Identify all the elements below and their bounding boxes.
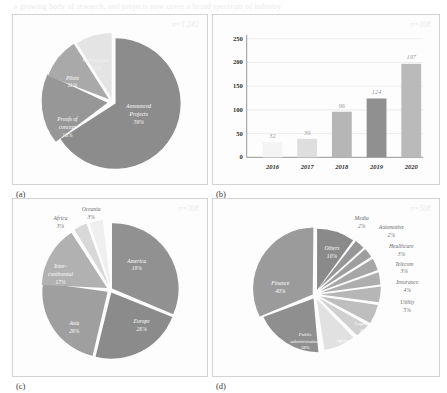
pie-d-label-healthcare: Healthcare — [388, 243, 414, 249]
bar-value-2017: 39 — [303, 129, 311, 136]
bar-value-2020: 197 — [406, 53, 416, 60]
pie-a-svg: Announced Projects 59% Proofs of concept… — [13, 15, 207, 184]
pie-c-label-africa-pct: 3% — [56, 223, 65, 229]
bar-2019 — [367, 99, 387, 158]
bar-b-ytick-labels: 250 200 150 100 50 0 — [233, 35, 244, 161]
pie-a-label-announced-line2: Projects — [129, 111, 148, 117]
pie-d-label-telecom-pct: 3% — [400, 268, 409, 274]
bar-value-2016: 32 — [268, 132, 276, 139]
pie-d-label-others: Others — [324, 245, 339, 251]
bar-value-2019: 124 — [372, 88, 382, 95]
bar-2020 — [401, 64, 421, 157]
panel-d: n=508 — [212, 198, 440, 391]
panel-d-frame: n=508 — [212, 198, 440, 377]
pie-d-label-automotive: Automotive — [378, 224, 405, 230]
panel-c: n=308 — [12, 198, 208, 391]
bar-b-ytick-100: 100 — [233, 106, 244, 113]
pie-d-label-publicadmin-line2: administration — [291, 339, 321, 344]
pie-chart-sector: Others 10% Finance 40% Public administra… — [213, 199, 439, 376]
bar-2016 — [263, 142, 283, 157]
pie-c-label-america: America — [126, 258, 146, 264]
bar-b-ytick-150: 150 — [233, 82, 244, 89]
bar-2017 — [297, 139, 317, 157]
bar-b-bars — [263, 64, 422, 157]
pie-d-label-publicadmin-line1: Public — [298, 332, 313, 337]
bar-b-ytick-250: 250 — [233, 35, 244, 42]
pie-a-label-announced-pct: 59% — [134, 119, 145, 125]
bar-cat-2019: 2019 — [369, 163, 384, 170]
pie-a-label-pilots: Pilots — [65, 75, 79, 81]
pie-a-label-operational-pct: 12% — [91, 65, 102, 71]
pie-a-label-announced-line1: Announced — [125, 103, 151, 109]
pie-c-label-inter-line1: Inter- — [53, 263, 67, 269]
panel-b: n=108 250 200 150 100 50 — [212, 14, 440, 199]
pie-c-label-europe: Europe — [133, 318, 151, 324]
pie-d-label-automotive-pct: 2% — [388, 232, 396, 238]
bar-b-ytick-50: 50 — [236, 130, 243, 137]
panel-a: n=1,242 — [12, 14, 208, 199]
pie-d-label-publicadmin-pct: 18% — [301, 345, 310, 350]
pie-c-label-inter-pct: 17% — [55, 279, 66, 285]
pie-d-label-utility: Utility — [400, 299, 415, 305]
bar-b-category-labels: 2016 2017 2018 2019 2020 — [265, 163, 419, 170]
pie-d-label-finance: Finance — [270, 280, 290, 286]
bar-cat-2017: 2017 — [300, 163, 315, 170]
pie-a-label-proofs-line2: concept — [59, 124, 77, 130]
pie-d-label-insurance: Insurance — [395, 279, 419, 285]
pie-a-label-proofs-line1: Proofs of — [56, 116, 79, 122]
panel-c-frame: n=308 — [12, 198, 208, 377]
bar-b-ytick-0: 0 — [239, 153, 243, 160]
panel-c-caption: (c) — [16, 381, 25, 391]
pie-c-svg: America 19% Europe 26% Asia 26% Inter- c… — [13, 199, 207, 376]
bar-2018 — [332, 112, 352, 158]
pie-c-label-asia: Asia — [68, 320, 79, 326]
pie-d-label-media: Media — [354, 215, 369, 221]
pie-chart-region: America 19% Europe 26% Asia 26% Inter- c… — [13, 199, 207, 376]
pie-c-label-oceania: Oceania — [82, 206, 101, 212]
bar-cat-2018: 2018 — [334, 163, 349, 170]
pie-d-label-telecom: Telecom — [395, 261, 413, 267]
pie-d-svg: Others 10% Finance 40% Public administra… — [213, 199, 439, 376]
panel-a-frame: n=1,242 — [12, 14, 208, 185]
pie-d-label-healthcare-pct: 3% — [397, 251, 406, 257]
pie-d-label-utility-pct: 5% — [404, 307, 412, 313]
pie-d-label-others-pct: 10% — [327, 253, 338, 259]
pie-c-label-asia-pct: 26% — [69, 328, 80, 334]
pie-c-label-oceania-pct: 3% — [87, 214, 96, 220]
pie-d-label-agrifood-pct: 7% — [342, 344, 349, 349]
pie-d-label-media-pct: 2% — [358, 223, 366, 229]
pie-chart-project-stage: Announced Projects 59% Proofs of concept… — [13, 15, 207, 184]
figure-grid: n=1,242 — [0, 12, 447, 393]
pie-a-label-operational: Operational — [83, 57, 110, 63]
pie-d-label-logistics: Logistics — [354, 321, 373, 326]
pie-d-label-logistics-pct: 4% — [360, 328, 367, 333]
bar-cat-2016: 2016 — [265, 163, 280, 170]
panel-d-caption: (d) — [216, 381, 226, 391]
bar-cat-2020: 2020 — [404, 163, 419, 170]
pie-c-label-america-pct: 19% — [132, 265, 143, 271]
pie-d-label-agrifood: Agrifood — [335, 338, 354, 343]
pie-d-label-insurance-pct: 4% — [404, 287, 412, 293]
panel-b-frame: n=108 250 200 150 100 50 — [212, 14, 440, 185]
bar-value-2018: 96 — [339, 102, 346, 109]
pie-a-label-pilots-pct: 11% — [68, 82, 78, 88]
pie-c-label-africa: Africa — [53, 215, 68, 221]
pie-c-label-europe-pct: 26% — [137, 326, 148, 332]
pie-d-label-finance-pct: 40% — [275, 288, 286, 294]
bar-b-ytick-200: 200 — [233, 58, 244, 65]
bar-chart-projects-per-year: 250 200 150 100 50 0 32 39 — [213, 15, 439, 184]
pie-a-label-proofs-pct: 18% — [62, 132, 73, 138]
pie-c-label-inter-line2: continental — [48, 271, 73, 277]
